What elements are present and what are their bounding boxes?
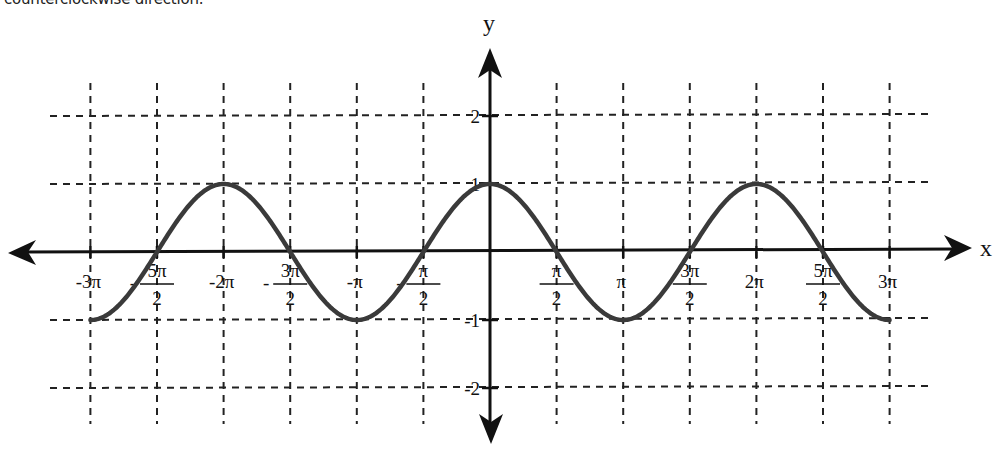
- x-tick-label: -π: [347, 271, 363, 292]
- x-axis-label: x: [980, 235, 992, 261]
- cosine-graph: x y -3π5π2--2π3π2--ππ2-π2π3π22π5π23π21-1…: [0, 0, 998, 457]
- fraction-denominator: 2: [285, 288, 295, 309]
- axes: x y: [8, 10, 992, 444]
- fraction-denominator: 2: [152, 288, 162, 309]
- fraction-denominator: 2: [818, 288, 828, 309]
- x-tick-label: -3π: [76, 271, 102, 292]
- y-tick-label: -2: [464, 378, 480, 399]
- fraction-sign: -: [263, 272, 269, 293]
- x-tick-label: -2π: [209, 271, 235, 292]
- fraction-numerator: π: [552, 260, 562, 281]
- fraction-numerator: π: [419, 260, 429, 281]
- fraction-denominator: 2: [552, 288, 562, 309]
- x-tick-label: 3π: [878, 271, 898, 292]
- fraction-denominator: 2: [685, 288, 695, 309]
- x-tick-label: π: [616, 271, 626, 292]
- y-tick-label: 2: [471, 106, 481, 127]
- y-axis-label: y: [483, 10, 495, 36]
- fraction-denominator: 2: [419, 288, 429, 309]
- y-tick-label: -1: [464, 310, 480, 331]
- x-tick-label: 2π: [745, 271, 765, 292]
